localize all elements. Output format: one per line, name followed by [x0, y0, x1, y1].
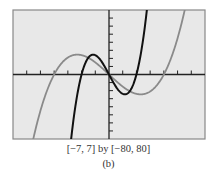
figure-label: (b) — [0, 158, 217, 169]
window-range-caption: [−7, 7] by [−80, 80] — [0, 143, 217, 154]
